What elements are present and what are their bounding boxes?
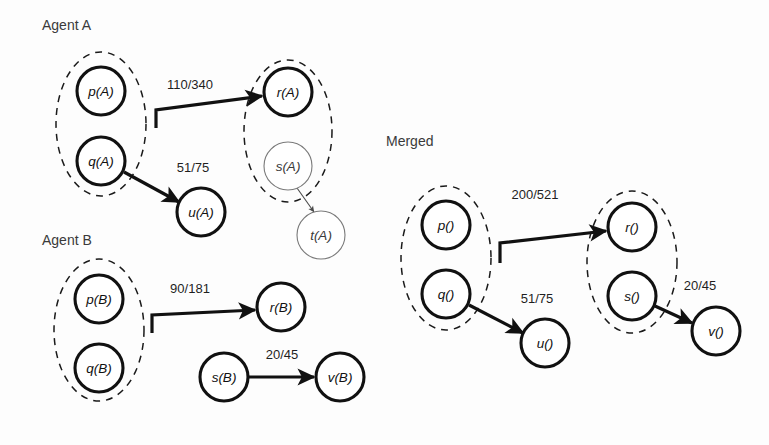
node-label-vB: v(B)	[328, 370, 353, 385]
node-label-tA: t(A)	[310, 228, 332, 243]
edge-weight-b-group-to-rB: 90/181	[170, 281, 210, 296]
node-label-qM: q()	[438, 287, 455, 302]
node-label-sB: s(B)	[212, 370, 237, 385]
node-label-vM: v()	[708, 324, 724, 339]
edge-qM-to-uM	[469, 305, 523, 333]
node-label-pB: p(B)	[85, 292, 112, 307]
node-label-pM: p()	[437, 218, 455, 233]
node-label-qA: q(A)	[88, 154, 114, 169]
edge-b-group-to-rB	[152, 310, 255, 333]
edge-sM-to-vM	[655, 306, 692, 323]
edge-weight-a-group-to-rA: 110/340	[167, 77, 213, 92]
node-label-uM: u()	[537, 336, 554, 351]
edge-weight-qM-to-uM: 51/75	[521, 291, 554, 306]
nodes-layer: p(A)q(A)r(A)s(A)u(A)t(A)p(B)q(B)r(B)s(B)…	[75, 67, 740, 401]
node-label-sM: s()	[624, 289, 640, 304]
section-title-agent-b: Agent B	[42, 232, 92, 248]
node-label-rB: r(B)	[270, 300, 293, 315]
edge-weight-qA-to-uA: 51/75	[177, 160, 210, 175]
group-ellipses	[54, 52, 677, 401]
edge-weight-sB-to-vB: 20/45	[266, 347, 299, 362]
edge-weight-m-group-to-rM: 200/521	[512, 187, 559, 202]
section-title-agent-a: Agent A	[42, 17, 92, 33]
node-label-rM: r()	[625, 220, 639, 235]
edge-qA-to-uA	[124, 172, 179, 202]
node-label-uA: u(A)	[188, 205, 214, 220]
node-label-sA: s(A)	[276, 159, 301, 174]
diagram-canvas: p(A)q(A)r(A)s(A)u(A)t(A)p(B)q(B)r(B)s(B)…	[0, 0, 769, 445]
section-title-merged: Merged	[386, 133, 433, 149]
edge-a-group-to-rA	[156, 96, 262, 128]
node-label-pA: p(A)	[87, 84, 114, 99]
edge-weight-sM-to-vM: 20/45	[684, 278, 717, 293]
agent-merge-diagram: p(A)q(A)r(A)s(A)u(A)t(A)p(B)q(B)r(B)s(B)…	[0, 0, 769, 445]
node-label-qB: q(B)	[86, 361, 112, 376]
node-label-rA: r(A)	[277, 85, 300, 100]
